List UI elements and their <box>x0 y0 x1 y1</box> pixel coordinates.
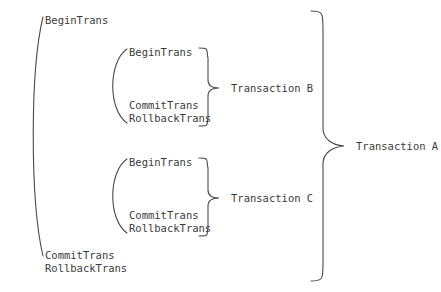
outer-rollback-trans-label: RollbackTrans <box>45 262 127 275</box>
outer-commit-trans-label: CommitTrans <box>45 249 115 262</box>
transaction-a-name-label: Transaction A <box>356 140 438 153</box>
transaction-b-rollback-trans-label: RollbackTrans <box>129 112 211 125</box>
outer-transaction-left-arc <box>33 17 43 256</box>
transaction-b-begin-trans-label: BeginTrans <box>129 46 192 59</box>
transaction-c-left-arc <box>113 159 127 233</box>
transaction-b-commit-trans-label: CommitTrans <box>129 99 199 112</box>
transaction-c-begin-trans-label: BeginTrans <box>129 156 192 169</box>
transaction-b-left-arc <box>113 49 127 123</box>
outer-begin-trans-label: BeginTrans <box>45 14 108 27</box>
transaction-a-right-brace <box>311 11 344 281</box>
transaction-c-rollback-trans-label: RollbackTrans <box>129 222 211 235</box>
transaction-c-commit-trans-label: CommitTrans <box>129 209 199 222</box>
transaction-b-name-label: Transaction B <box>231 82 313 95</box>
transaction-c-name-label: Transaction C <box>231 192 313 205</box>
transaction-nesting-diagram: BeginTrans CommitTrans RollbackTrans Beg… <box>0 0 441 292</box>
